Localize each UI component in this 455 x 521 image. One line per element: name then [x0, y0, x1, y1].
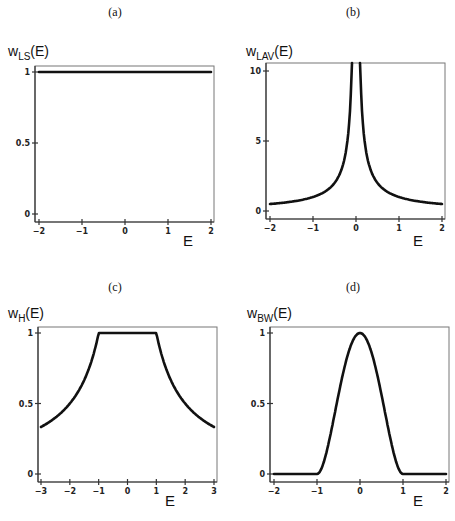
panel-c: (c)wH(E)−3−2−1012300.51E	[7, 280, 217, 509]
x-tick-label: 0	[122, 227, 128, 236]
plot-frame	[35, 66, 214, 222]
panel-d: (d)wBW(E)−2−101200.51E	[246, 280, 449, 509]
x-axis-label: E	[413, 232, 423, 249]
x-tick-label: −1	[76, 227, 89, 236]
x-tick-label: −1	[307, 224, 320, 233]
y-tick-label: 5	[255, 137, 261, 146]
y-tick-label: 0.5	[19, 400, 34, 409]
x-tick-label: 2	[182, 487, 188, 496]
y-tick-label: 0	[255, 207, 261, 216]
panel-label: (c)	[108, 280, 121, 294]
x-tick-label: −2	[64, 487, 76, 496]
x-tick-label: −2	[264, 224, 276, 233]
x-tick-label: −3	[35, 487, 47, 496]
panel-label: (a)	[108, 5, 121, 19]
x-tick-label: 2	[439, 224, 445, 233]
y-tick-label: 10	[250, 67, 262, 76]
x-axis-label: E	[165, 492, 175, 509]
y-axis-label: wBW(E)	[246, 305, 292, 324]
y-axis-label: wLAV(E)	[245, 43, 293, 62]
y-tick-label: 0	[259, 470, 265, 479]
y-axis-label: wLS(E)	[7, 43, 49, 62]
plot-frame	[266, 63, 445, 219]
data-curve	[274, 333, 446, 474]
x-tick-label: 1	[400, 487, 406, 496]
x-tick-label: 2	[208, 227, 214, 236]
x-tick-label: −1	[93, 487, 106, 496]
x-axis-label: E	[413, 492, 423, 509]
data-curve	[360, 63, 442, 204]
x-tick-label: 3	[211, 487, 217, 496]
x-tick-label: 1	[165, 227, 171, 236]
y-tick-label: 1	[27, 329, 33, 338]
y-tick-label: 1	[259, 329, 265, 338]
plot-frame	[38, 327, 217, 482]
x-tick-label: 1	[154, 487, 160, 496]
x-tick-label: 0	[357, 487, 363, 496]
plot-frame	[270, 327, 449, 482]
x-axis-label: E	[183, 232, 193, 249]
panel-a: (a)wLS(E)−2−101200.51E	[7, 5, 214, 249]
data-curve	[270, 63, 352, 204]
x-tick-label: −2	[33, 227, 45, 236]
panel-b: (b)wLAV(E)−2−10120510E	[245, 5, 445, 249]
data-curve	[41, 333, 214, 427]
y-tick-label: 0.5	[251, 400, 266, 409]
y-tick-label: 0	[24, 210, 30, 219]
x-tick-label: −2	[268, 487, 280, 496]
x-tick-label: −1	[311, 487, 324, 496]
y-axis-label: wH(E)	[7, 305, 44, 324]
y-tick-label: 1	[24, 68, 30, 77]
panel-label: (b)	[346, 5, 360, 19]
y-tick-label: 0.5	[16, 139, 31, 148]
x-tick-label: 1	[396, 224, 402, 233]
x-tick-label: 2	[443, 487, 449, 496]
panel-label: (d)	[346, 280, 360, 294]
figure: (a)wLS(E)−2−101200.51E(b)wLAV(E)−2−10120…	[0, 0, 455, 521]
y-tick-label: 0	[27, 470, 33, 479]
x-tick-label: 0	[125, 487, 131, 496]
x-tick-label: 0	[353, 224, 359, 233]
